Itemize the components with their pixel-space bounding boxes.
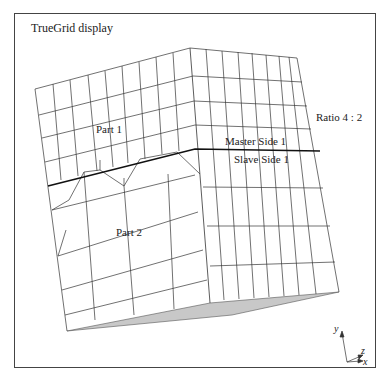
part-2-label: Part 2 [116,227,142,238]
right-face-mesh [190,48,339,300]
axis-triad [340,331,363,363]
left-face-mesh [35,48,207,331]
y-axis-label: y [334,324,338,334]
master-side-label: Master Side 1 [225,136,286,147]
part-1-label: Part 1 [96,124,122,135]
bottom-face [67,292,339,331]
z-axis-label: z [361,346,365,356]
display-title: TrueGrid display [31,22,113,34]
slave-side-label: Slave Side 1 [234,154,289,165]
x-axis-label: x [363,357,367,367]
ratio-label: Ratio 4 : 2 [316,112,362,123]
